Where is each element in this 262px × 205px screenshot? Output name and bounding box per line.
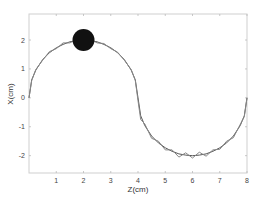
y-axis-label: X(cm): [6, 83, 15, 105]
y-tick-label: 2: [21, 37, 25, 44]
y-tick-label: 0: [21, 94, 25, 101]
chart: 12345678 -2-1012 Z(cm) X(cm): [0, 0, 262, 205]
y-tick-label: -1: [19, 123, 25, 130]
x-tick-label: 1: [54, 177, 58, 184]
y-tick-label: -2: [19, 152, 25, 159]
x-tick-label: 2: [82, 177, 86, 184]
x-tick-label: 3: [109, 177, 113, 184]
plot-area: [29, 14, 247, 173]
x-axis-label: Z(cm): [128, 185, 149, 194]
x-tick-label: 7: [218, 177, 222, 184]
y-tick-label: 1: [21, 65, 25, 72]
position-marker: [73, 29, 95, 51]
x-tick-label: 4: [136, 177, 140, 184]
x-tick-label: 8: [245, 177, 249, 184]
x-tick-label: 6: [191, 177, 195, 184]
x-tick-label: 5: [163, 177, 167, 184]
